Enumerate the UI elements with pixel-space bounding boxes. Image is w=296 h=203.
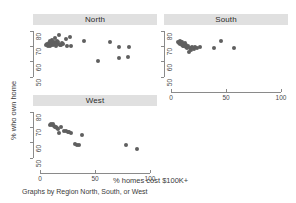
data-point xyxy=(77,143,81,147)
y-tick-north-60 xyxy=(30,61,33,62)
x-tick-south-50 xyxy=(226,89,227,92)
y-tick-south-50 xyxy=(161,77,164,78)
data-point xyxy=(64,37,68,41)
data-point xyxy=(117,45,121,49)
panel-title-west: West xyxy=(33,95,157,106)
data-point xyxy=(69,131,73,135)
y-tick-label-north-80: 80 xyxy=(35,31,42,43)
data-point xyxy=(57,131,61,135)
data-point xyxy=(69,44,73,48)
data-point xyxy=(117,56,121,60)
x-tick-west-0 xyxy=(40,170,41,173)
y-tick-label-north-50: 50 xyxy=(35,77,42,89)
y-axis-title: % who own home xyxy=(9,81,18,140)
x-tick-label-south-100: 100 xyxy=(272,94,290,101)
y-tick-label-west-60: 60 xyxy=(35,142,42,154)
data-point xyxy=(135,147,139,151)
y-tick-label-south-60: 60 xyxy=(166,61,173,73)
x-tick-south-100 xyxy=(281,89,282,92)
data-point xyxy=(82,39,86,43)
graph-note: Graphs by Region North, South, or West xyxy=(22,188,148,195)
y-tick-north-50 xyxy=(30,77,33,78)
x-tick-label-south-50: 50 xyxy=(217,94,235,101)
y-tick-label-south-80: 80 xyxy=(166,31,173,43)
y-tick-north-70 xyxy=(30,46,33,47)
y-tick-west-70 xyxy=(30,127,33,128)
data-point xyxy=(126,55,130,59)
y-tick-west-50 xyxy=(30,158,33,159)
y-tick-south-80 xyxy=(161,31,164,32)
data-point xyxy=(127,45,131,49)
x-tick-west-50 xyxy=(95,170,96,173)
x-axis-title: % homes cost $100K+ xyxy=(113,176,188,185)
x-axis-line-west xyxy=(40,173,150,174)
data-point xyxy=(96,59,100,63)
y-tick-north-80 xyxy=(30,31,33,32)
panel-north: North 50607080 xyxy=(33,14,157,88)
panel-title-north: North xyxy=(33,14,157,25)
data-point xyxy=(212,46,216,50)
y-tick-south-60 xyxy=(161,61,164,62)
y-axis-line-west xyxy=(33,112,34,158)
panel-south: South 50607080050100 xyxy=(164,14,288,88)
x-tick-label-south-0: 0 xyxy=(162,94,180,101)
x-axis-line-south xyxy=(171,92,281,93)
y-tick-label-west-50: 50 xyxy=(35,158,42,170)
y-tick-label-south-70: 70 xyxy=(166,46,173,58)
y-tick-label-north-70: 70 xyxy=(35,46,42,58)
y-tick-label-west-80: 80 xyxy=(35,112,42,124)
data-point xyxy=(198,45,202,49)
data-point xyxy=(68,35,72,39)
data-point xyxy=(57,33,61,37)
plot-area-west: 50607080050100 xyxy=(33,106,157,169)
data-point xyxy=(108,40,112,44)
y-tick-west-80 xyxy=(30,112,33,113)
data-point xyxy=(80,133,84,137)
plot-area-south: 50607080050100 xyxy=(164,25,288,88)
y-axis-line-south xyxy=(164,31,165,77)
y-tick-west-60 xyxy=(30,142,33,143)
plot-area-north: 50607080 xyxy=(33,25,157,88)
x-tick-label-west-50: 50 xyxy=(86,175,104,182)
panel-title-south: South xyxy=(164,14,288,25)
x-tick-west-100 xyxy=(150,170,151,173)
data-point xyxy=(219,39,223,43)
panel-west: West 50607080050100 xyxy=(33,95,157,169)
stata-faceted-scatter-figure: % who own home North 50607080 South 5060… xyxy=(0,0,296,203)
y-axis-line-north xyxy=(33,31,34,77)
data-point xyxy=(232,46,236,50)
y-tick-label-north-60: 60 xyxy=(35,61,42,73)
x-tick-south-0 xyxy=(171,89,172,92)
x-tick-label-west-0: 0 xyxy=(31,175,49,182)
y-tick-label-south-50: 50 xyxy=(166,77,173,89)
y-tick-south-70 xyxy=(161,46,164,47)
y-tick-label-west-70: 70 xyxy=(35,127,42,139)
data-point xyxy=(124,143,128,147)
